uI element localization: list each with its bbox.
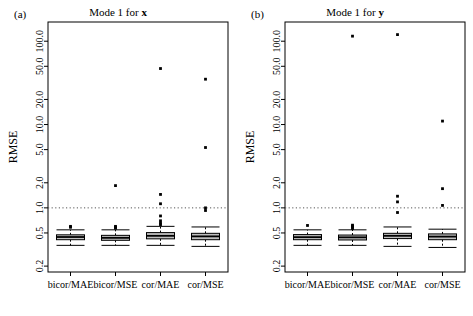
outlier-point <box>159 67 162 70</box>
outlier-point <box>204 206 207 209</box>
y-tick-label: 5.0 <box>34 143 45 156</box>
y-tick-label: 2.0 <box>271 177 282 190</box>
outlier-point <box>204 209 207 212</box>
panel-a: (a) Mode 1 for x 0.20.51.02.05.010.020.0… <box>0 0 236 316</box>
boxplot-bicor/MSE[interactable] <box>339 35 367 246</box>
outlier-point <box>441 120 444 123</box>
boxplot-cor/MSE[interactable] <box>192 78 220 247</box>
y-tick-label: 100.0 <box>271 30 282 53</box>
outlier-point <box>204 78 207 81</box>
y-tick-label: 0.5 <box>34 227 45 240</box>
y-tick-label: 0.5 <box>271 227 282 240</box>
y-tick-label: 20.0 <box>34 91 45 109</box>
x-tick-label-cor/MAE: cor/MAE <box>379 279 417 290</box>
boxplot-cor/MAE[interactable] <box>384 33 412 246</box>
outlier-point <box>396 211 399 214</box>
y-tick-label: 50.0 <box>271 58 282 76</box>
x-tick-label-bicor/MSE: bicor/MSE <box>94 279 138 290</box>
x-tick-label-cor/MSE: cor/MSE <box>187 279 223 290</box>
y-tick-label: 1.0 <box>34 202 45 215</box>
outlier-point <box>204 146 207 149</box>
x-tick-label-cor/MAE: cor/MAE <box>142 279 180 290</box>
boxplot-bicor/MAE[interactable] <box>57 225 85 245</box>
y-tick-label: 10.0 <box>271 116 282 134</box>
boxplot-figure: (a) Mode 1 for x 0.20.51.02.05.010.020.0… <box>0 0 473 316</box>
y-tick-label: 50.0 <box>34 58 45 76</box>
outlier-point <box>351 35 354 38</box>
x-tick-label-bicor/MSE: bicor/MSE <box>331 279 375 290</box>
outlier-point <box>396 195 399 198</box>
outlier-point <box>396 33 399 36</box>
y-tick-label: 2.0 <box>34 177 45 190</box>
x-tick-label-bicor/MAE: bicor/MAE <box>285 279 331 290</box>
outlier-point <box>159 222 162 225</box>
boxplot-bicor/MSE[interactable] <box>102 184 130 245</box>
outlier-point <box>159 219 162 222</box>
boxplot-cor/MAE[interactable] <box>147 67 175 245</box>
x-tick-label-cor/MSE: cor/MSE <box>424 279 460 290</box>
panel-b: (b) Mode 1 for y 0.20.51.02.05.010.020.0… <box>237 0 473 316</box>
outlier-point <box>306 224 309 227</box>
y-tick-label: 0.2 <box>271 260 282 273</box>
outlier-point <box>69 225 72 228</box>
outlier-point <box>159 193 162 196</box>
y-tick-label: 10.0 <box>34 116 45 134</box>
outlier-point <box>114 225 117 228</box>
panel-a-plot: 0.20.51.02.05.010.020.050.0100.0RMSEbico… <box>0 0 236 316</box>
outlier-point <box>441 204 444 207</box>
y-tick-label: 100.0 <box>34 30 45 53</box>
x-tick-label-bicor/MAE: bicor/MAE <box>48 279 94 290</box>
y-tick-label: 1.0 <box>271 202 282 215</box>
boxplot-bicor/MAE[interactable] <box>294 224 322 245</box>
boxplot-cor/MSE[interactable] <box>429 120 457 248</box>
outlier-point <box>441 187 444 190</box>
y-axis-title: RMSE <box>6 131 20 164</box>
y-tick-label: 0.2 <box>34 260 45 273</box>
y-axis-title: RMSE <box>243 131 257 164</box>
panel-b-plot: 0.20.51.02.05.010.020.050.0100.0RMSEbico… <box>237 0 473 316</box>
outlier-point <box>159 215 162 218</box>
y-tick-label: 20.0 <box>271 91 282 109</box>
outlier-point <box>351 224 354 227</box>
outlier-point <box>396 200 399 203</box>
y-tick-label: 5.0 <box>271 143 282 156</box>
outlier-point <box>159 202 162 205</box>
outlier-point <box>114 184 117 187</box>
